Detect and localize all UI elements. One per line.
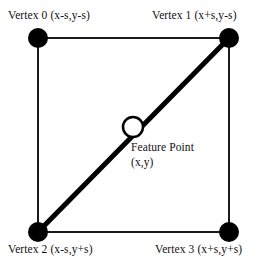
diagram-canvas — [0, 0, 274, 272]
feature-point-marker — [123, 117, 143, 137]
vertex-0-dot — [28, 28, 48, 48]
feature-point-coordinates: (x,y) — [131, 156, 154, 169]
vertex-2-dot — [28, 222, 48, 242]
bilinear-interpolation-figure: Vertex 0 (x-s,y-s) Vertex 1 (x+s,y-s) Ve… — [0, 0, 274, 272]
vertex-0-label: Vertex 0 (x-s,y-s) — [8, 9, 90, 22]
vertex-1-label: Vertex 1 (x+s,y-s) — [152, 9, 237, 22]
feature-point-label: Feature Point — [131, 141, 194, 154]
vertex-1-dot — [219, 28, 239, 48]
vertex-2-label: Vertex 2 (x-s,y+s) — [8, 243, 93, 256]
vertex-3-dot — [219, 222, 239, 242]
vertex-3-label: Vertex 3 (x+s,y+s) — [155, 243, 242, 256]
